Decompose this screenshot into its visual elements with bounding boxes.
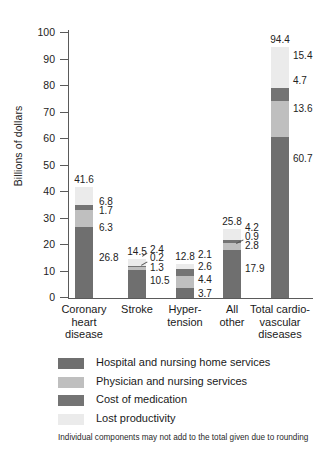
bar-segment-label-4-1: 13.6 [293, 103, 312, 114]
legend-item-2: Cost of medication [58, 392, 328, 411]
bar-segment-label-4-2: 4.7 [293, 75, 307, 86]
y-tick-90 [60, 59, 68, 60]
legend-item-3: Lost productivity [58, 411, 328, 430]
bar-total-label-0: 41.6 [64, 174, 104, 185]
y-tick-label-20: 20 [15, 239, 55, 249]
bar-segment-0-1 [75, 210, 93, 227]
y-tick-label-100: 100 [15, 27, 55, 37]
y-tick-label-60: 60 [15, 133, 55, 143]
legend-label-3: Lost productivity [96, 412, 175, 424]
y-tick-label-30: 30 [15, 213, 55, 223]
y-tick-label-90: 90 [15, 54, 55, 64]
bar-segment-label-4-3: 15.4 [293, 50, 312, 61]
bar-segment-label-1-1: 1.3 [150, 262, 164, 273]
y-tick-20 [60, 244, 68, 245]
bar-segment-2-0 [176, 288, 194, 298]
bar-4 [271, 33, 289, 298]
category-label-line: diseases [243, 328, 317, 341]
bar-segment-label-2-2: 2.6 [198, 261, 212, 272]
bar-1 [128, 33, 146, 298]
stacked-bar-chart: Billions of dollars 10090807060504030201… [0, 0, 335, 455]
legend-label-2: Cost of medication [96, 393, 187, 405]
bar-segment-label-1-0: 10.5 [150, 275, 169, 286]
y-axis-line [68, 30, 69, 299]
bar-segment-1-0 [128, 270, 146, 298]
bar-segment-0-3 [75, 187, 93, 205]
bar-segment-label-3-0: 17.9 [245, 263, 264, 274]
category-label-4: Total cardio-vasculardiseases [243, 303, 317, 341]
y-tick-label-0: 0 [15, 292, 55, 302]
y-tick-label-40: 40 [15, 186, 55, 196]
bar-segment-1-2 [128, 266, 146, 267]
category-label-line: Total cardio- [243, 303, 317, 316]
bar-3 [223, 33, 241, 298]
y-tick-100 [60, 32, 68, 33]
y-tick-40 [60, 191, 68, 192]
bar-segment-2-3 [176, 264, 194, 270]
legend-swatch-1 [58, 377, 84, 388]
bar-segment-label-4-0: 60.7 [293, 153, 312, 164]
bar-segment-2-1 [176, 276, 194, 288]
y-tick-label-50: 50 [15, 160, 55, 170]
bar-segment-label-0-0: 26.8 [99, 252, 118, 263]
bar-segment-label-2-0: 3.7 [198, 288, 212, 299]
legend-swatch-0 [58, 358, 84, 369]
bar-segment-3-3 [223, 229, 241, 240]
bar-segment-3-0 [223, 250, 241, 297]
bar-segment-4-1 [271, 101, 289, 137]
y-tick-50 [60, 165, 68, 166]
legend-label-1: Physician and nursing services [96, 375, 247, 387]
y-tick-label-70: 70 [15, 107, 55, 117]
bar-segment-label-2-1: 4.4 [198, 274, 212, 285]
bar-segment-label-1-3: 2.4 [150, 244, 164, 255]
plot-area: Billions of dollars 10090807060504030201… [0, 0, 335, 310]
legend-swatch-2 [58, 395, 84, 406]
footnote: Individual components may not add to the… [58, 433, 333, 442]
legend-item-1: Physician and nursing services [58, 374, 328, 393]
bar-segment-label-2-3: 2.1 [198, 249, 212, 260]
bar-segment-label-0-3: 6.8 [99, 196, 113, 207]
category-label-line: heart [47, 316, 121, 329]
bar-segment-4-2 [271, 88, 289, 100]
x-axis-line [68, 298, 313, 299]
y-tick-label-10: 10 [15, 266, 55, 276]
legend-swatch-3 [58, 414, 84, 425]
bar-segment-3-1 [223, 243, 241, 250]
y-tick-80 [60, 85, 68, 86]
y-tick-60 [60, 138, 68, 139]
legend-item-0: Hospital and nursing home services [58, 355, 328, 374]
bar-segment-2-2 [176, 269, 194, 276]
legend: Hospital and nursing home servicesPhysic… [58, 355, 328, 429]
bar-total-label-4: 94.4 [260, 34, 300, 45]
bar-segment-label-0-1: 6.3 [99, 222, 113, 233]
y-tick-70 [60, 112, 68, 113]
bar-segment-0-0 [75, 227, 93, 298]
y-tick-10 [60, 271, 68, 272]
y-tick-30 [60, 218, 68, 219]
bar-segment-0-2 [75, 205, 93, 210]
category-label-line: disease [47, 328, 121, 341]
bar-0 [75, 33, 93, 298]
bar-segment-label-3-3: 4.2 [245, 222, 259, 233]
bar-segment-4-3 [271, 47, 289, 88]
category-label-line: vascular [243, 316, 317, 329]
y-tick-0 [60, 297, 68, 298]
y-tick-label-80: 80 [15, 80, 55, 90]
legend-label-0: Hospital and nursing home services [96, 356, 270, 368]
bar-segment-4-0 [271, 137, 289, 298]
